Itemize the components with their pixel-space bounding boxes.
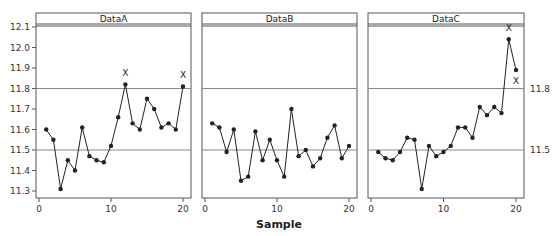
data-point	[463, 125, 467, 129]
data-point	[383, 156, 387, 160]
data-point	[427, 144, 431, 148]
data-point	[130, 121, 134, 125]
x-tick-label: 20	[177, 204, 189, 214]
y-tick-label: 12.1	[10, 22, 30, 32]
data-point	[434, 154, 438, 158]
data-point	[514, 68, 518, 72]
panel-frame	[368, 13, 524, 198]
control-chart: 11.311.411.511.611.711.811.912.012.1Data…	[0, 0, 554, 236]
x-tick-label: 10	[438, 204, 450, 214]
x-axis-title: Sample	[256, 218, 302, 231]
data-point	[332, 123, 336, 127]
data-point	[260, 158, 264, 162]
data-point	[210, 121, 214, 125]
panel-title: DataA	[100, 14, 128, 24]
data-point	[94, 158, 98, 162]
data-point	[311, 164, 315, 168]
data-point	[282, 174, 286, 178]
data-point	[318, 156, 322, 160]
data-point	[58, 187, 62, 191]
data-point	[224, 150, 228, 154]
data-point	[492, 105, 496, 109]
data-point	[152, 107, 156, 111]
data-point	[232, 127, 236, 131]
y-tick-label: 12.0	[10, 43, 30, 53]
data-point	[44, 127, 48, 131]
data-point	[499, 111, 503, 115]
data-point	[109, 144, 113, 148]
data-point	[405, 136, 409, 140]
data-point	[376, 150, 380, 154]
data-point	[87, 154, 91, 158]
data-point	[275, 158, 279, 162]
y-tick-label: 11.7	[10, 104, 30, 114]
right-axis-label: 11.5	[530, 145, 550, 155]
data-point	[66, 158, 70, 162]
y-tick-label: 11.5	[10, 145, 30, 155]
data-point	[166, 121, 170, 125]
y-tick-label: 11.9	[10, 63, 30, 73]
data-point	[478, 105, 482, 109]
data-point	[325, 136, 329, 140]
y-tick-label: 11.6	[10, 125, 30, 135]
right-axis-label: 11.8	[530, 84, 550, 94]
out-of-control-marker: X	[122, 68, 128, 78]
data-point	[304, 148, 308, 152]
data-point	[412, 138, 416, 142]
panel-datac: DataC01020XX	[368, 13, 524, 214]
data-point	[289, 107, 293, 111]
out-of-control-marker: X	[506, 23, 512, 33]
data-point	[268, 138, 272, 142]
y-axis: 11.311.411.511.611.711.811.912.012.1	[10, 22, 36, 196]
data-point	[116, 115, 120, 119]
data-point	[181, 84, 185, 88]
x-tick-label: 10	[271, 204, 283, 214]
y-tick-label: 11.8	[10, 84, 30, 94]
data-point	[347, 144, 351, 148]
panel-dataa: DataA01020XX	[36, 13, 191, 214]
data-point	[138, 127, 142, 131]
out-of-control-marker: X	[513, 76, 519, 86]
panel-title: DataB	[266, 14, 294, 24]
y-tick-label: 11.4	[10, 166, 30, 176]
data-point	[296, 154, 300, 158]
x-tick-label: 0	[202, 204, 208, 214]
data-point	[246, 174, 250, 178]
data-point	[507, 37, 511, 41]
data-point	[239, 179, 243, 183]
data-point	[470, 136, 474, 140]
x-tick-label: 0	[36, 204, 42, 214]
data-point	[80, 125, 84, 129]
data-point	[391, 158, 395, 162]
panel-frame	[202, 13, 357, 198]
data-point	[217, 125, 221, 129]
data-point	[123, 82, 127, 86]
data-point	[456, 125, 460, 129]
panel-title: DataC	[432, 14, 460, 24]
data-point	[340, 156, 344, 160]
data-point	[145, 97, 149, 101]
data-point	[449, 144, 453, 148]
data-point	[420, 187, 424, 191]
data-point	[51, 138, 55, 142]
data-point	[253, 129, 257, 133]
data-point	[159, 125, 163, 129]
y-tick-label: 11.3	[10, 186, 30, 196]
x-tick-label: 20	[510, 204, 522, 214]
x-tick-label: 10	[105, 204, 117, 214]
data-point	[441, 150, 445, 154]
data-point	[485, 113, 489, 117]
data-point	[102, 160, 106, 164]
panel-datab: DataB01020	[202, 13, 357, 214]
data-point	[398, 150, 402, 154]
out-of-control-marker: X	[180, 70, 186, 80]
panel-frame	[36, 13, 191, 198]
x-tick-label: 0	[368, 204, 374, 214]
data-point	[73, 168, 77, 172]
data-point	[174, 127, 178, 131]
x-tick-label: 20	[343, 204, 355, 214]
